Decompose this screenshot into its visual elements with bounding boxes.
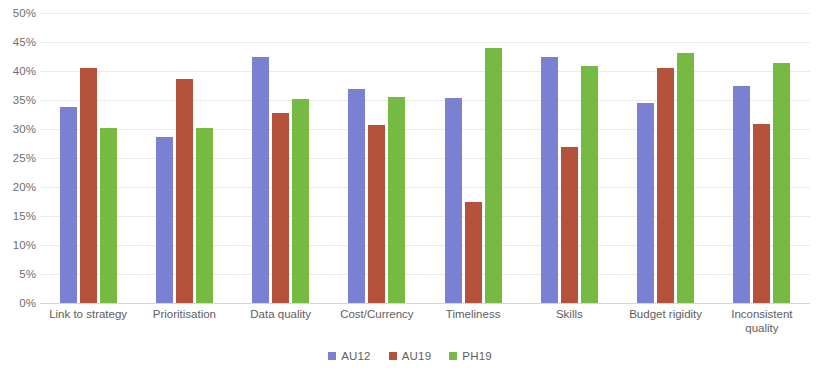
legend-item[interactable]: AU19 xyxy=(389,350,432,362)
legend-item[interactable]: AU12 xyxy=(328,350,371,362)
chart-legend: AU12AU19PH19 xyxy=(0,350,820,362)
bar-au12[interactable] xyxy=(637,103,654,303)
x-axis-category-label: Skills xyxy=(521,307,617,335)
bar-au12[interactable] xyxy=(445,98,462,303)
y-axis-tick-label: 0% xyxy=(0,297,36,309)
bar-au12[interactable] xyxy=(60,107,77,303)
bar-au19[interactable] xyxy=(176,79,193,303)
legend-label: AU12 xyxy=(341,350,371,362)
bar-au12[interactable] xyxy=(733,86,750,303)
bar-au19[interactable] xyxy=(368,125,385,303)
bar-group xyxy=(136,13,232,303)
bar-au19[interactable] xyxy=(753,124,770,303)
bar-chart: 0%5%10%15%20%25%30%35%40%45%50% Link to … xyxy=(0,0,820,372)
y-axis-tick-label: 50% xyxy=(0,7,36,19)
y-axis-tick-label: 25% xyxy=(0,152,36,164)
bar-ph19[interactable] xyxy=(677,53,694,303)
bar-group xyxy=(714,13,810,303)
y-axis: 0%5%10%15%20%25%30%35%40%45%50% xyxy=(0,13,36,303)
bar-au19[interactable] xyxy=(80,68,97,303)
bar-group xyxy=(40,13,136,303)
bar-au19[interactable] xyxy=(272,113,289,303)
bar-au19[interactable] xyxy=(465,202,482,303)
bar-group xyxy=(233,13,329,303)
y-axis-tick-label: 10% xyxy=(0,239,36,251)
bar-au12[interactable] xyxy=(541,57,558,304)
bar-ph19[interactable] xyxy=(485,48,502,303)
bar-ph19[interactable] xyxy=(292,99,309,303)
bar-ph19[interactable] xyxy=(196,128,213,303)
bar-ph19[interactable] xyxy=(100,128,117,303)
legend-label: AU19 xyxy=(402,350,432,362)
y-axis-tick-label: 5% xyxy=(0,268,36,280)
y-axis-tick-label: 15% xyxy=(0,210,36,222)
bar-group xyxy=(521,13,617,303)
bar-ph19[interactable] xyxy=(388,97,405,303)
bar-au12[interactable] xyxy=(348,89,365,303)
bar-group xyxy=(425,13,521,303)
x-axis-category-label: Cost/Currency xyxy=(329,307,425,335)
bar-groups xyxy=(40,13,810,303)
x-axis-category-label: Inconsistent quality xyxy=(714,307,810,335)
legend-label: PH19 xyxy=(462,350,492,362)
legend-swatch-icon xyxy=(389,352,397,360)
bar-au12[interactable] xyxy=(252,57,269,304)
legend-swatch-icon xyxy=(328,352,336,360)
y-axis-tick-label: 35% xyxy=(0,94,36,106)
y-axis-tick-label: 30% xyxy=(0,123,36,135)
x-axis-category-label: Prioritisation xyxy=(136,307,232,335)
x-axis-category-label: Link to strategy xyxy=(40,307,136,335)
gridline xyxy=(40,303,810,304)
bar-au19[interactable] xyxy=(657,68,674,303)
x-axis-category-label: Data quality xyxy=(233,307,329,335)
bar-group xyxy=(329,13,425,303)
bar-au12[interactable] xyxy=(156,137,173,303)
y-axis-tick-label: 45% xyxy=(0,36,36,48)
legend-swatch-icon xyxy=(449,352,457,360)
bar-group xyxy=(618,13,714,303)
x-axis: Link to strategyPrioritisationData quali… xyxy=(40,307,810,335)
y-axis-tick-label: 20% xyxy=(0,181,36,193)
bar-ph19[interactable] xyxy=(581,66,598,303)
bar-ph19[interactable] xyxy=(773,63,790,303)
y-axis-tick-label: 40% xyxy=(0,65,36,77)
x-axis-category-label: Budget rigidity xyxy=(618,307,714,335)
bar-au19[interactable] xyxy=(561,147,578,303)
legend-item[interactable]: PH19 xyxy=(449,350,492,362)
x-axis-category-label: Timeliness xyxy=(425,307,521,335)
